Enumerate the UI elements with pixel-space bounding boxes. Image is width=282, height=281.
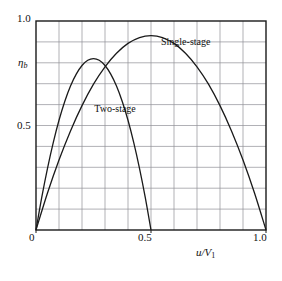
annotation-single-stage: Single-stage [161, 36, 210, 47]
y-tick-label-0.5: 0.5 [17, 119, 31, 131]
x-tick-label-0.5: 0.5 [138, 231, 152, 243]
y-axis-title: ηb [18, 56, 27, 70]
chart-figure: 1.0 0.5 ηb 0 0.5 1.0 u/V1 Single-stage T… [0, 0, 282, 281]
y-tick-label-1.0: 1.0 [17, 12, 31, 24]
x-axis-subscript: 1 [211, 251, 215, 260]
x-tick-label-0: 0 [29, 231, 35, 243]
x-axis-title: u/V1 [196, 246, 215, 260]
annotation-two-stage: Two-stage [94, 103, 136, 114]
y-axis-subscript: b [23, 61, 27, 70]
x-tick-label-1.0: 1.0 [253, 231, 267, 243]
x-axis-numerator: u/V [196, 246, 211, 258]
